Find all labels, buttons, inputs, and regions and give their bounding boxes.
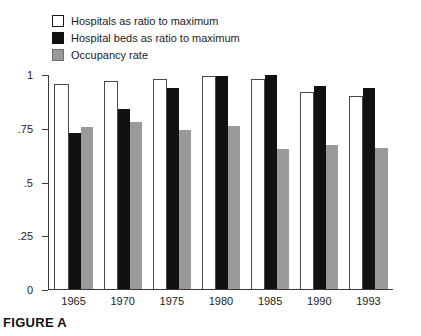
y-axis-tick-label: .25: [18, 231, 33, 242]
bar: [104, 81, 118, 289]
bar: [251, 79, 265, 289]
legend-swatch-gray: [52, 49, 64, 61]
bar-group: 1970: [98, 75, 147, 289]
bar: [265, 75, 277, 289]
bar-group: 1985: [246, 75, 295, 289]
bar: [202, 76, 216, 289]
bar-group-bars: [153, 75, 191, 289]
y-axis-tick-label: 0: [27, 285, 33, 296]
y-axis-tick-label: 1: [27, 70, 33, 81]
legend-swatch-black: [52, 32, 64, 44]
bar: [81, 127, 93, 289]
bar-groups: 1965197019751980198519901993: [49, 75, 393, 289]
x-axis-tick-label: 1993: [356, 296, 380, 307]
bar-group-bars: [251, 75, 289, 289]
bar: [363, 88, 375, 289]
bar: [375, 148, 387, 289]
bar: [228, 126, 240, 289]
legend-item-hospital-beds: Hospital beds as ratio to maximum: [52, 30, 240, 45]
y-axis-tick: .75: [42, 129, 48, 130]
bar: [314, 86, 326, 289]
bar-chart-plot-area: 0.25.5.751 1965197019751980198519901993: [48, 75, 393, 290]
y-axis-tick: 1: [42, 75, 48, 76]
x-axis-tick-label: 1990: [307, 296, 331, 307]
x-axis-tick-label: 1985: [258, 296, 282, 307]
bar-group: 1990: [295, 75, 344, 289]
bar-group-bars: [104, 75, 142, 289]
bar: [130, 122, 142, 289]
bar: [69, 133, 81, 289]
x-axis-tick-label: 1980: [209, 296, 233, 307]
bar-group-bars: [202, 75, 240, 289]
bar: [54, 84, 68, 289]
legend-label-hospital-beds: Hospital beds as ratio to maximum: [71, 32, 240, 44]
bar: [118, 109, 130, 289]
x-axis-line: [48, 289, 393, 290]
x-axis-tick-label: 1975: [160, 296, 184, 307]
legend-item-occupancy-rate: Occupancy rate: [52, 47, 240, 62]
x-axis-tick-label: 1965: [61, 296, 85, 307]
legend-label-hospitals: Hospitals as ratio to maximum: [71, 15, 218, 27]
legend-swatch-white: [52, 15, 64, 27]
y-axis-tick: .5: [42, 183, 48, 184]
legend-item-hospitals: Hospitals as ratio to maximum: [52, 13, 240, 28]
bar-group: 1975: [147, 75, 196, 289]
figure-a: Hospitals as ratio to maximum Hospital b…: [0, 0, 421, 336]
x-axis-tick-label: 1970: [110, 296, 134, 307]
figure-caption: FIGURE A: [3, 315, 67, 330]
y-axis-tick: .25: [42, 236, 48, 237]
bar: [300, 92, 314, 289]
legend-label-occupancy-rate: Occupancy rate: [71, 49, 148, 61]
y-axis-tick: 0: [42, 290, 48, 291]
bar: [326, 145, 338, 289]
bar: [179, 130, 191, 289]
bar: [216, 76, 228, 289]
bar-group: 1993: [344, 75, 393, 289]
chart-legend: Hospitals as ratio to maximum Hospital b…: [52, 13, 240, 64]
y-axis-tick-label: .5: [24, 177, 33, 188]
bar-group-bars: [54, 75, 92, 289]
bar: [153, 79, 167, 289]
bar-group: 1965: [49, 75, 98, 289]
bar: [277, 149, 289, 289]
bar-group: 1980: [196, 75, 245, 289]
bar: [349, 96, 363, 289]
y-axis-tick-label: .75: [18, 123, 33, 134]
bar-group-bars: [300, 75, 338, 289]
bar-group-bars: [349, 75, 387, 289]
bar: [167, 88, 179, 289]
